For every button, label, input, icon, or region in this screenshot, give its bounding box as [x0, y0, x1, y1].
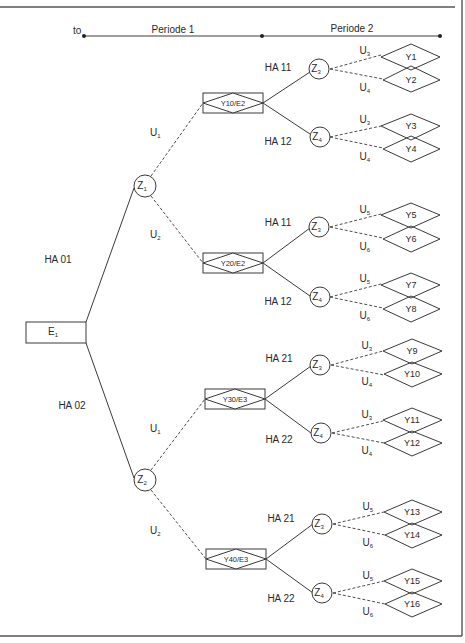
- state-u1-z1: U1: [150, 127, 161, 139]
- svg-text:Y9: Y9: [406, 346, 417, 356]
- svg-text:U3: U3: [361, 409, 372, 421]
- svg-text:Y30/E3: Y30/E3: [223, 395, 248, 404]
- svg-text:U3: U3: [359, 114, 370, 126]
- svg-text:U5: U5: [362, 570, 373, 582]
- svg-text:U5: U5: [362, 501, 373, 513]
- svg-text:U4: U4: [361, 376, 372, 388]
- state-u2-z1: U2: [150, 229, 161, 241]
- timeline-dot-start: [82, 34, 86, 38]
- svg-text:Y40/E3: Y40/E3: [224, 555, 249, 564]
- decision-box-y40-e3: Y40/E3: [206, 549, 266, 569]
- svg-text:HA 21: HA 21: [265, 353, 293, 364]
- state-u1-z2: U1: [150, 423, 161, 435]
- subtree-y20: Y20/E2 HA 11 HA 12 Z3 U5 U6 Y5 Y6 Z4 U5 …: [203, 203, 440, 322]
- subtree-y30: Y30/E3 HA 21 HA 22 Z3 U3 U4 Y9 Y10 Z4 U3…: [205, 339, 442, 457]
- chance-node-z1: Z1: [134, 175, 156, 197]
- action-ha02: HA 02: [58, 400, 86, 411]
- svg-text:HA 11: HA 11: [265, 217, 292, 228]
- svg-text:U4: U4: [359, 82, 370, 94]
- subtree-y40: Y40/E3 HA 21 HA 22 Z3 U5 U6 Y13 Y14 Z4 U…: [206, 500, 442, 618]
- chance-node-z2: Z2: [134, 469, 156, 491]
- timeline-dot-end: [438, 34, 442, 38]
- svg-text:Y10/E2: Y10/E2: [221, 99, 246, 108]
- decision-tree-diagram: to Periode 1 Periode 2 E1 HA 01 HA 02 U1…: [0, 0, 465, 643]
- timeline: to Periode 1 Periode 2: [73, 23, 442, 38]
- root-decision-node: E1: [26, 322, 86, 343]
- svg-text:U6: U6: [362, 537, 373, 549]
- svg-text:U5: U5: [359, 273, 370, 285]
- svg-text:Y15: Y15: [404, 576, 420, 586]
- svg-text:HA 22: HA 22: [267, 593, 295, 604]
- svg-text:Y7: Y7: [405, 280, 416, 290]
- svg-text:Y3: Y3: [405, 121, 416, 131]
- action-ha11: HA 11: [265, 62, 292, 73]
- timeline-dot-mid: [260, 34, 264, 38]
- svg-text:U6: U6: [359, 241, 370, 253]
- svg-text:Y13: Y13: [404, 507, 420, 517]
- edge-ha02: [86, 343, 134, 478]
- decision-box-y30-e3: Y30/E3: [205, 389, 265, 409]
- svg-text:Y6: Y6: [405, 234, 416, 244]
- svg-text:U3: U3: [359, 45, 370, 57]
- svg-text:Y5: Y5: [405, 210, 416, 220]
- svg-text:U3: U3: [361, 340, 372, 352]
- svg-text:HA 21: HA 21: [267, 513, 295, 524]
- subtree-y10: Y10/E2 HA 11 HA 12 Z3 U3 U4 Y1 Y2 Z4 U3 …: [203, 44, 440, 163]
- period-1-label: Periode 1: [152, 24, 195, 35]
- svg-text:Y4: Y4: [405, 144, 416, 154]
- svg-text:U4: U4: [361, 445, 372, 457]
- svg-text:HA 22: HA 22: [265, 434, 293, 445]
- svg-text:Y1: Y1: [405, 52, 416, 62]
- decision-box-y10-e2: Y10/E2: [203, 93, 263, 113]
- timeline-start-label: to: [73, 25, 82, 36]
- svg-text:U6: U6: [362, 606, 373, 618]
- svg-text:Y10: Y10: [404, 369, 420, 379]
- action-ha01: HA 01: [44, 254, 72, 265]
- action-ha12: HA 12: [264, 136, 292, 147]
- svg-text:Y11: Y11: [404, 415, 419, 425]
- svg-text:Y8: Y8: [405, 304, 416, 314]
- svg-text:U6: U6: [359, 310, 370, 322]
- svg-text:Y14: Y14: [404, 530, 420, 540]
- svg-text:HA 12: HA 12: [264, 296, 292, 307]
- svg-text:Y16: Y16: [404, 599, 420, 609]
- svg-text:Y20/E2: Y20/E2: [221, 259, 246, 268]
- svg-text:U5: U5: [359, 204, 370, 216]
- state-u2-z2: U2: [150, 525, 161, 537]
- edge-ha01: [86, 188, 134, 322]
- svg-text:Y2: Y2: [405, 75, 416, 85]
- svg-text:Y12: Y12: [404, 438, 420, 448]
- period-2-label: Periode 2: [331, 23, 374, 34]
- svg-text:U4: U4: [359, 151, 370, 163]
- decision-box-y20-e2: Y20/E2: [203, 253, 263, 273]
